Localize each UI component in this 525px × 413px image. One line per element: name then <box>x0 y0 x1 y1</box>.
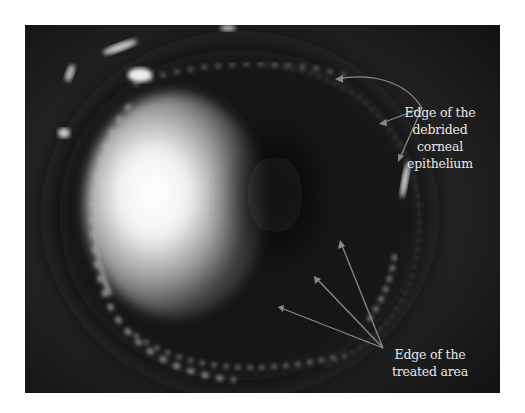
cornea-photo <box>25 25 500 393</box>
label-line: epithelium <box>400 155 480 172</box>
cornea-image <box>25 25 500 393</box>
treated-area-edge-label: Edge of the treated area <box>380 346 480 380</box>
label-line: Edge of the <box>400 104 480 121</box>
label-line: Edge of the <box>380 346 480 363</box>
epithelium-edge-label: Edge of the debrided corneal epithelium <box>400 104 480 172</box>
label-line: corneal <box>400 138 480 155</box>
label-line: debrided <box>400 121 480 138</box>
label-line: treated area <box>380 363 480 380</box>
